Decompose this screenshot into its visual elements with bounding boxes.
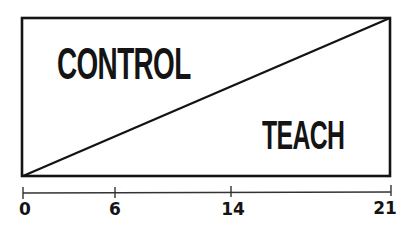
teach-label: TEACH <box>262 115 344 155</box>
tick-label-14: 14 <box>221 201 245 218</box>
control-teach-diagram <box>0 0 412 230</box>
tick-label-6: 6 <box>109 201 121 218</box>
control-label: CONTROL <box>57 41 191 86</box>
tick-label-0: 0 <box>19 201 31 218</box>
tick-label-21: 21 <box>373 200 397 217</box>
axis-line <box>23 192 391 193</box>
